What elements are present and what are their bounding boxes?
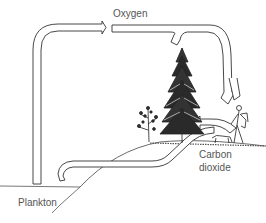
carbon-dioxide-label: Carbon dioxide [199, 149, 239, 173]
oxygen-arrow-from-plankton [33, 21, 106, 184]
small-tree [137, 106, 157, 142]
carbon-dioxide-arrow-to-plankton [58, 127, 214, 181]
carbon-dioxide-label-line1: Carbon [199, 149, 239, 160]
plankton-label: Plankton [18, 197, 57, 208]
carbon-dioxide-label-line2: dioxide [199, 162, 239, 173]
diagram-canvas [0, 0, 266, 223]
oxygen-label: Oxygen [113, 8, 147, 19]
tall-conifer-tree [160, 48, 204, 143]
cycle-diagram: Oxygen Carbon dioxide Plankton [0, 0, 266, 223]
